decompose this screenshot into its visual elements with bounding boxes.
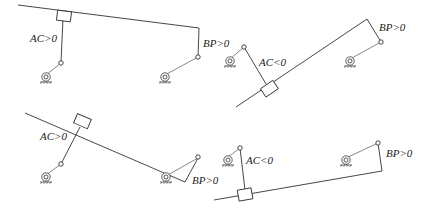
ground-pivot-icon <box>40 73 52 84</box>
bp-link <box>198 28 199 57</box>
slider-block <box>260 80 278 97</box>
panel-bottom-right: AC<0 BP>0 <box>214 141 413 201</box>
ground-pivot-icon <box>40 173 52 184</box>
ground-pivot-icon <box>224 57 236 68</box>
coupler-line <box>25 113 185 182</box>
joint-c <box>238 146 242 150</box>
ac-link <box>240 148 245 190</box>
ground-pivot-icon <box>344 57 356 68</box>
ac-label: AC>0 <box>39 130 67 142</box>
joint-p <box>376 141 380 145</box>
slider-block <box>237 188 253 201</box>
ac-link <box>61 19 63 62</box>
mechanism-diagram: AC>0 BP>0 AC<0 BP>0 AC>0 BP>0 <box>0 0 429 214</box>
coupler-line <box>18 5 199 28</box>
bp-link <box>378 143 382 171</box>
ground-pivot-icon <box>340 156 352 167</box>
bp-label: BP>0 <box>386 147 413 159</box>
panel-bottom-left: AC>0 BP>0 <box>25 113 219 186</box>
joint-c <box>59 61 63 65</box>
crank-b <box>350 42 381 59</box>
joint-c <box>59 162 63 166</box>
ground-pivot-icon <box>160 173 172 184</box>
ac-label: AC>0 <box>29 32 57 44</box>
joint-c <box>242 45 246 49</box>
slider-block <box>74 114 92 129</box>
joint-p <box>196 155 200 159</box>
bp-label: BP>0 <box>192 174 219 186</box>
joint-p <box>379 40 383 44</box>
slider-block <box>56 10 71 22</box>
ground-pivot-icon <box>159 73 171 84</box>
crank-b <box>165 57 198 75</box>
bp-label: BP>0 <box>379 21 406 33</box>
panel-top-right: AC<0 BP>0 <box>224 19 406 107</box>
joint-p <box>196 55 200 59</box>
bp-label: BP>0 <box>203 37 230 49</box>
ac-label: AC<0 <box>258 56 286 68</box>
ground-pivot-icon <box>222 156 234 167</box>
panel-top-left: AC>0 BP>0 <box>18 5 230 84</box>
crank-b <box>346 143 378 158</box>
ac-label: AC<0 <box>245 154 273 166</box>
